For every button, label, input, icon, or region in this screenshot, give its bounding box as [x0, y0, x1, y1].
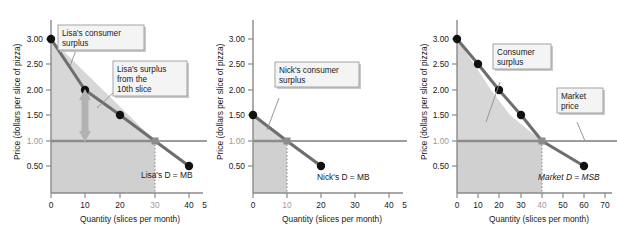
x-tick-label: 0	[49, 200, 54, 210]
chart-panel-nick: 0.50 1.00 1.50 2.00 2.50 3.00 0 10 20 30…	[207, 0, 407, 233]
x-tick-label: 10	[282, 200, 292, 210]
y-tick-label: 2.00	[27, 85, 44, 95]
x-tick-label: 30	[350, 200, 360, 210]
callout-line: Consumer	[497, 48, 535, 57]
curve-label: Market D = MSB	[538, 172, 600, 182]
callout-market-price: Market price	[557, 88, 605, 141]
y-tick-label: 1.50	[229, 110, 246, 120]
x-tick-label: 30	[516, 200, 526, 210]
callout-line: Market	[561, 92, 587, 101]
expenditure-area	[253, 141, 287, 193]
y-tick-label: 2.50	[433, 59, 450, 69]
y-tick-label: 2.50	[229, 59, 246, 69]
x-tick-label: 0	[455, 200, 460, 210]
expenditure-area	[457, 141, 542, 193]
callout-line: price	[561, 102, 579, 111]
equilibrium-marker	[284, 138, 291, 145]
y-tick-label: 0.50	[433, 161, 450, 171]
nick-chart-svg: 0.50 1.00 1.50 2.00 2.50 3.00 0 10 20 30…	[207, 0, 407, 233]
y-tick-label: 1.00	[433, 136, 450, 146]
y-tick-label: 0.50	[229, 161, 246, 171]
y-tick-label: 1.00	[229, 136, 246, 146]
callout-consumer-surplus: Nick's consumer surplus	[267, 62, 361, 130]
y-tick-label: 3.00	[229, 34, 246, 44]
callout-line: surplus	[62, 39, 88, 48]
x-tick-label: 40	[184, 200, 194, 210]
data-point-marker	[185, 162, 193, 170]
callout-line: surplus	[279, 76, 305, 85]
callout-line: from the	[117, 75, 147, 84]
data-point-marker	[517, 111, 525, 119]
data-point-marker	[47, 35, 55, 43]
callout-line: surplus	[497, 58, 523, 67]
x-tick-label: 0	[251, 200, 256, 210]
callout-line: Lisa's surplus	[117, 65, 166, 74]
equilibrium-marker	[152, 138, 159, 145]
x-tick-label: 40	[384, 200, 394, 210]
x-tick-label: 70	[600, 200, 610, 210]
chart-panel-lisa: 0.50 1.00 1.50 2.00 2.50 3.00 0 10 20 30…	[0, 0, 207, 233]
y-axis-title: Price (dollars per slice of pizza)	[419, 43, 429, 160]
x-tick-label: 50	[558, 200, 568, 210]
data-point-marker	[474, 60, 482, 68]
x-axis-title: Quantity (slices per month)	[80, 214, 180, 224]
y-tick-label: 3.00	[27, 34, 44, 44]
expenditure-area	[51, 141, 155, 193]
callout-line: Lisa's consumer	[62, 29, 121, 38]
x-tick-label: 20	[316, 200, 326, 210]
y-tick-label: 1.50	[433, 110, 450, 120]
data-point-marker	[453, 35, 461, 43]
y-tick-label: 0.50	[27, 161, 44, 171]
consumer-surplus-figure: 0.50 1.00 1.50 2.00 2.50 3.00 0 10 20 30…	[0, 0, 617, 233]
data-point-marker	[580, 162, 588, 170]
data-point-marker	[317, 162, 325, 170]
y-tick-label: 1.00	[27, 136, 44, 146]
x-tick-label: 20	[494, 200, 504, 210]
lisa-chart-svg: 0.50 1.00 1.50 2.00 2.50 3.00 0 10 20 30…	[0, 0, 207, 233]
x-tick-label: 10	[473, 200, 483, 210]
y-tick-label: 1.50	[27, 110, 44, 120]
chart-panel-market: 0.50 1.00 1.50 2.00 2.50 3.00 0 10 20 30…	[407, 0, 617, 233]
x-axis-title: Quantity (slices per month)	[282, 214, 382, 224]
y-axis-title: Price (dollars per slice of pizza)	[215, 43, 225, 160]
curve-label: Lisa's D = MB	[141, 170, 193, 180]
y-tick-label: 3.00	[433, 34, 450, 44]
data-point-marker	[249, 111, 257, 119]
curve-label: Nick's D = MB	[317, 172, 370, 182]
y-tick-label: 2.50	[27, 59, 44, 69]
x-tick-label: 30	[150, 200, 160, 210]
y-tick-label: 2.00	[433, 85, 450, 95]
x-tick-label: 20	[115, 200, 125, 210]
y-axis-title: Price (dollars per slice of pizza)	[12, 43, 22, 160]
y-tick-label: 2.00	[229, 85, 246, 95]
data-point-marker	[116, 111, 124, 119]
equilibrium-marker	[539, 138, 546, 145]
callout-line: 10th slice	[117, 85, 152, 94]
callout-line: Nick's consumer	[279, 66, 339, 75]
x-tick-label: 40	[537, 200, 547, 210]
x-tick-label: 60	[579, 200, 589, 210]
x-tick-label: 10	[80, 200, 90, 210]
x-axis-title: Quantity (slices per month)	[489, 214, 589, 224]
market-chart-svg: 0.50 1.00 1.50 2.00 2.50 3.00 0 10 20 30…	[407, 0, 617, 233]
